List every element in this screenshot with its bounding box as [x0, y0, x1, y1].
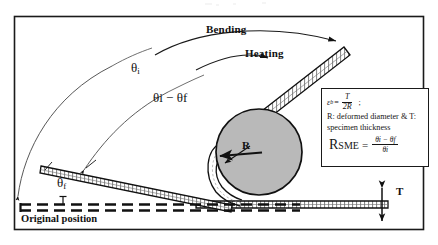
rsme-symbol: RSME — [329, 137, 359, 153]
rsme-numerator: θi − θf — [372, 136, 398, 145]
strain-fraction: T 2R — [340, 93, 355, 111]
theta-i-subscript: i — [137, 66, 140, 76]
strain-equals: = — [334, 98, 339, 107]
heating-label: Heating — [245, 48, 284, 59]
rsme-denominator: θi — [379, 145, 391, 153]
rsme-equals: = — [362, 139, 368, 151]
strain-denominator: 2R — [340, 103, 355, 112]
definition-line-1: R: deformed diameter & T: — [327, 112, 424, 123]
theta-i-label: θi — [131, 61, 140, 74]
formula-box: εb = T 2R ; R: deformed diameter & T: sp… — [321, 88, 429, 167]
bending-strain-formula: εb = T 2R ; — [327, 92, 424, 112]
original-position-label: Original position — [21, 214, 97, 225]
scan-artifact — [205, 3, 266, 5]
thickness-label: T — [396, 186, 403, 197]
theta-diff-leader — [86, 160, 96, 168]
rsme-symbol-base: R — [329, 137, 338, 152]
theta-difference-label: θi − θf — [153, 91, 187, 104]
theta-f-subscript: f — [63, 181, 66, 191]
rsme-symbol-subscript: SME — [338, 140, 359, 151]
strain-symbol-subscript: b — [330, 99, 333, 105]
strain-semicolon: ; — [359, 98, 361, 107]
figure-root: Bending Heating θi θi − θf θf R T Origin… — [0, 0, 438, 245]
rsme-fraction: θi − θf θi — [372, 136, 398, 153]
radius-label: R — [242, 140, 250, 151]
rsme-formula: RSME = θi − θf θi — [327, 136, 424, 153]
theta-f-label: θf — [57, 176, 66, 189]
definition-line-2: specimen thickness — [327, 123, 424, 134]
specimen-strip-recovered — [40, 166, 232, 212]
bending-label: Bending — [206, 24, 247, 35]
